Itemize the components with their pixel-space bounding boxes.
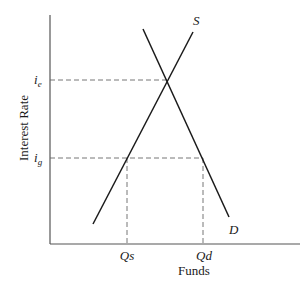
x-axis-title: Funds <box>178 263 210 278</box>
qd-label: Qd <box>196 248 212 263</box>
qs-label: Qs <box>120 248 134 263</box>
supply-curve <box>93 32 193 224</box>
demand-label: D <box>228 222 239 237</box>
supply-label: S <box>193 13 200 28</box>
y-axis-title: Interest Rate <box>16 95 31 161</box>
ig-label: ig <box>34 150 43 167</box>
demand-curve <box>143 29 229 217</box>
ie-label: ie <box>34 72 42 89</box>
loanable-funds-diagram: S D ie ig Qs Qd Funds Interest Rate <box>0 0 301 290</box>
